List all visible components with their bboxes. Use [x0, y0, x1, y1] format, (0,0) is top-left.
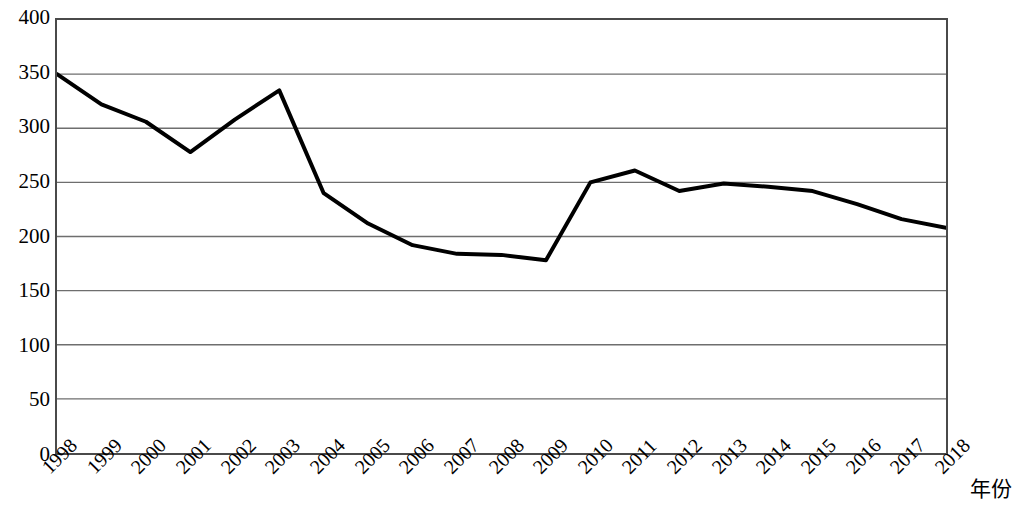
- x-axis-title: 年份: [970, 478, 1012, 499]
- y-tick-label: 400: [6, 7, 50, 28]
- y-axis: 400350300250200150100500: [0, 0, 50, 507]
- y-tick-label: 100: [6, 335, 50, 356]
- y-tick-label: 250: [6, 171, 50, 192]
- y-tick-label: 150: [6, 280, 50, 301]
- series-polyline: [57, 74, 946, 260]
- data-series-line: [57, 20, 946, 453]
- y-tick-label: 350: [6, 62, 50, 83]
- plot-area: [55, 18, 948, 455]
- y-tick-label: 50: [6, 389, 50, 410]
- y-tick-label: 200: [6, 226, 50, 247]
- y-tick-label: 0: [6, 444, 50, 465]
- y-tick-label: 300: [6, 116, 50, 137]
- line-chart: 400350300250200150100500 199819992000200…: [0, 0, 1017, 507]
